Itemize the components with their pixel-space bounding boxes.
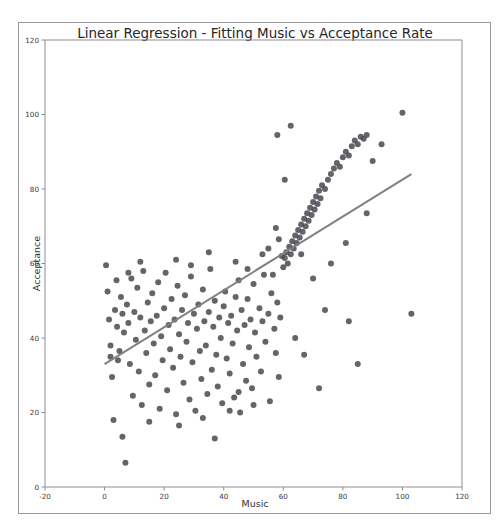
scatter-point — [251, 281, 257, 287]
scatter-point — [189, 359, 195, 365]
scatter-point — [316, 188, 322, 194]
scatter-plot-canvas: -20020406080100120020406080100120 — [18, 22, 492, 515]
scatter-point — [265, 246, 271, 252]
scatter-point — [178, 354, 184, 360]
scatter-point — [259, 318, 265, 324]
scatter-point — [274, 300, 280, 306]
scatter-point — [292, 335, 298, 341]
scatter-point — [108, 342, 114, 348]
scatter-point — [137, 259, 143, 265]
scatter-point — [306, 218, 312, 224]
scatter-point — [233, 294, 239, 300]
scatter-point — [197, 348, 203, 354]
scatter-point — [285, 261, 291, 267]
scatter-point — [236, 389, 242, 395]
scatter-point — [119, 434, 125, 440]
scatter-point — [111, 417, 117, 423]
scatter-point — [200, 415, 206, 421]
scatter-point — [105, 288, 111, 294]
scatter-point — [297, 234, 303, 240]
scatter-point — [124, 301, 130, 307]
scatter-point — [252, 329, 258, 335]
scatter-point — [337, 164, 343, 170]
scatter-point — [268, 290, 274, 296]
scatter-point — [206, 309, 212, 315]
scatter-point — [322, 307, 328, 313]
scatter-point — [221, 303, 227, 309]
scatter-point — [282, 255, 288, 261]
scatter-point — [331, 166, 337, 172]
scatter-point — [301, 352, 307, 358]
scatter-point — [148, 318, 154, 324]
scatter-point — [267, 398, 273, 404]
scatter-point — [245, 296, 251, 302]
scatter-point — [242, 322, 248, 328]
scatter-point — [261, 272, 267, 278]
scatter-point — [237, 410, 243, 416]
scatter-point — [259, 251, 265, 257]
scatter-point — [298, 251, 304, 257]
scatter-point — [203, 342, 209, 348]
scatter-point — [115, 357, 121, 363]
scatter-point — [121, 329, 127, 335]
y-tick-label: 20 — [30, 408, 40, 417]
scatter-point — [145, 300, 151, 306]
scatter-point — [143, 350, 149, 356]
scatter-point — [136, 369, 142, 375]
scatter-point — [408, 311, 414, 317]
scatter-point — [113, 277, 119, 283]
scatter-point — [163, 270, 169, 276]
scatter-point — [227, 370, 233, 376]
scatter-point — [271, 326, 277, 332]
scatter-point — [149, 290, 155, 296]
scatter-point — [355, 361, 361, 367]
scatter-point — [262, 339, 268, 345]
scatter-point — [309, 212, 315, 218]
scatter-point — [225, 320, 231, 326]
scatter-point — [274, 132, 280, 138]
scatter-point — [158, 333, 164, 339]
scatter-point — [315, 201, 321, 207]
scatter-point — [212, 436, 218, 442]
scatter-point — [154, 313, 160, 319]
scatter-point — [224, 355, 230, 361]
scatter-point — [231, 395, 237, 401]
scatter-point — [209, 367, 215, 373]
scatter-point — [322, 186, 328, 192]
scatter-point — [157, 406, 163, 412]
scatter-point — [125, 320, 131, 326]
scatter-point — [234, 328, 240, 334]
scatter-point — [273, 350, 279, 356]
scatter-point — [109, 374, 115, 380]
scatter-point — [139, 402, 145, 408]
regression-line — [105, 174, 412, 364]
scatter-point — [206, 249, 212, 255]
scatter-point — [248, 316, 254, 322]
scatter-point — [228, 313, 234, 319]
scatter-point — [204, 391, 210, 397]
y-tick-label: 0 — [34, 483, 39, 492]
scatter-point — [185, 320, 191, 326]
scatter-point — [173, 257, 179, 263]
scatter-point — [131, 309, 137, 315]
scatter-point — [213, 352, 219, 358]
scatter-point — [346, 318, 352, 324]
scatter-point — [355, 141, 361, 147]
scatter-point — [258, 369, 264, 375]
scatter-point — [103, 262, 109, 268]
scatter-point — [233, 259, 239, 265]
scatter-point — [277, 315, 283, 321]
scatter-point — [167, 346, 173, 352]
scatter-point — [230, 341, 236, 347]
scatter-point — [183, 339, 189, 345]
scatter-point — [227, 408, 233, 414]
scatter-point — [346, 152, 352, 158]
scatter-point — [118, 294, 124, 300]
scatter-point — [130, 393, 136, 399]
x-axis-label: Music — [18, 498, 492, 509]
scatter-point — [188, 262, 194, 268]
scatter-point — [364, 210, 370, 216]
scatter-point — [200, 287, 206, 293]
plot-data-group — [103, 110, 414, 466]
scatter-point — [182, 292, 188, 298]
